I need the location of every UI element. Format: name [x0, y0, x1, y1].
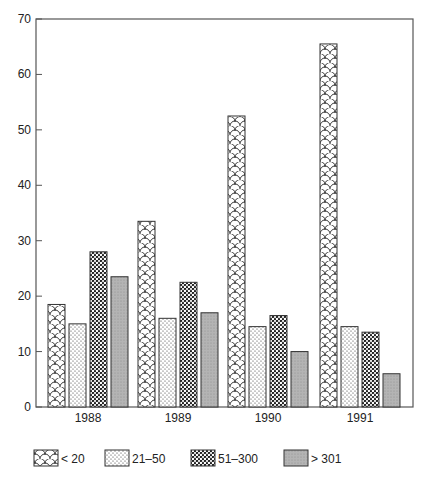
- y-tick-label: 40: [18, 178, 32, 192]
- legend-swatch: [34, 450, 58, 466]
- bar-1988-3: [111, 277, 128, 407]
- bar-1988-2: [90, 252, 107, 407]
- bar-1988-1: [69, 324, 86, 407]
- bar-1990-2: [270, 316, 287, 407]
- legend-swatch: [105, 450, 129, 466]
- y-tick-label: 20: [18, 289, 32, 303]
- x-tick-label: 1988: [75, 411, 102, 425]
- x-tick-label: 1991: [347, 411, 374, 425]
- legend-swatch: [191, 450, 215, 466]
- y-tick-label: 10: [18, 345, 32, 359]
- bar-1991-3: [383, 374, 400, 407]
- y-tick-label: 30: [18, 234, 32, 248]
- bar-chart: 010203040506070 1988198919901991 < 2021–…: [0, 0, 429, 485]
- y-tick-label: 60: [18, 67, 32, 81]
- legend-label: 51–300: [218, 452, 258, 466]
- legend-label: > 301: [311, 452, 342, 466]
- x-tick-label: 1990: [255, 411, 282, 425]
- legend-label: < 20: [61, 452, 85, 466]
- bar-1991-0: [320, 44, 337, 407]
- bar-1990-1: [249, 327, 266, 407]
- legend: < 2021–5051–300> 301: [34, 450, 342, 466]
- y-tick-label: 50: [18, 123, 32, 137]
- bar-1991-1: [341, 327, 358, 407]
- bar-1989-1: [159, 318, 176, 407]
- bar-1991-2: [362, 332, 379, 407]
- bar-1989-2: [180, 282, 197, 407]
- x-tick-label: 1989: [165, 411, 192, 425]
- bars-group: 1988198919901991: [48, 44, 400, 425]
- legend-label: 21–50: [132, 452, 166, 466]
- legend-swatch: [284, 450, 308, 466]
- bar-1990-3: [291, 352, 308, 407]
- bar-1989-0: [138, 221, 155, 407]
- y-tick-label: 70: [18, 12, 32, 26]
- y-tick-label: 0: [24, 400, 31, 414]
- bar-1988-0: [48, 304, 65, 407]
- bar-1990-0: [228, 116, 245, 407]
- bar-1989-3: [201, 313, 218, 407]
